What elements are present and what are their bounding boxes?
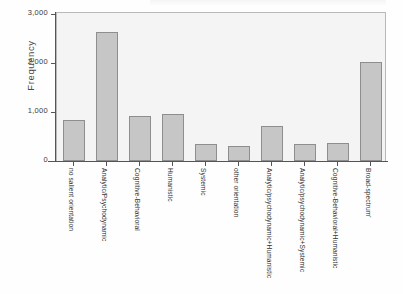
bar xyxy=(162,114,184,161)
y-axis-tick: 2,000 xyxy=(0,63,56,64)
bar xyxy=(195,144,217,161)
x-axis-tick-mark xyxy=(172,161,173,166)
x-axis-tick-mark xyxy=(304,161,305,166)
x-axis-tick-mark xyxy=(73,161,74,166)
bars-container xyxy=(57,13,385,161)
x-axis-tick-label: Systemic xyxy=(200,168,207,196)
x-axis-tick-mark xyxy=(106,161,107,166)
y-axis-tick-label: 3,000 xyxy=(28,8,48,17)
x-axis-tick-mark xyxy=(370,161,371,166)
bar xyxy=(261,126,283,161)
y-axis-tick: 3,000 xyxy=(0,14,56,15)
y-axis-tick-label: 1,000 xyxy=(28,106,48,115)
x-axis-tick-mark xyxy=(139,161,140,166)
x-axis-tick-label: Broad-spectrum' xyxy=(365,168,372,218)
x-axis-tick-label: Analytic/psychodynamic+Systemic xyxy=(299,168,306,272)
x-axis-tick-mark xyxy=(271,161,272,166)
bar xyxy=(294,144,316,161)
y-axis-tick-label: 0 xyxy=(44,155,48,164)
plot-area xyxy=(56,12,386,161)
bar xyxy=(129,116,151,161)
y-axis-tick: 1,000 xyxy=(0,112,56,113)
y-axis-tick-label: 2,000 xyxy=(28,57,48,66)
x-axis-tick-label: Analytic/Psychodynamic xyxy=(101,168,108,241)
x-axis-tick-label: Cognitive-Behavioral+Humanistic xyxy=(332,168,339,268)
bar xyxy=(96,32,118,162)
y-axis-tick-mark xyxy=(51,63,56,64)
bar-chart-figure: Frequency 01,0002,0003,000 no salient or… xyxy=(0,0,403,294)
bar xyxy=(228,146,250,161)
y-axis-tick-mark xyxy=(51,161,56,162)
x-axis-tick-label: Analytic/psychodynamic+Humanistic xyxy=(266,168,273,278)
x-axis-tick-mark xyxy=(337,161,338,166)
x-axis-tick-mark xyxy=(238,161,239,166)
x-axis-tick-label: Humanistic xyxy=(167,168,174,202)
bar xyxy=(360,62,382,161)
x-axis-tick-label: Cognitive-Behavioral xyxy=(134,168,141,231)
cropped-title-strip xyxy=(150,0,386,6)
x-axis-tick-label: no salient orientation xyxy=(68,168,75,231)
x-axis-tick-label: other orientation xyxy=(233,168,240,217)
y-axis-tick: 0 xyxy=(0,161,56,162)
bar xyxy=(63,120,85,161)
y-axis-line xyxy=(55,12,56,162)
y-axis-tick-mark xyxy=(51,112,56,113)
y-axis-tick-mark xyxy=(51,14,56,15)
x-axis-tick-mark xyxy=(205,161,206,166)
bar xyxy=(327,143,349,161)
